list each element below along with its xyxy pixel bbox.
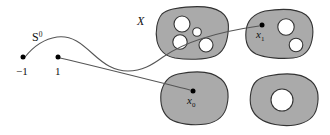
blob-bottom-right xyxy=(250,74,318,126)
label-sphere-base: S xyxy=(32,30,39,44)
label-point-one: 1 xyxy=(55,65,61,77)
label-x1-sub: 1 xyxy=(261,35,265,43)
hole-bottom-right-1 xyxy=(271,89,293,111)
label-point-minus-one: −1 xyxy=(16,65,28,77)
hole-top-left-4 xyxy=(199,38,213,52)
blob-top-left xyxy=(156,7,228,60)
blob-bottom-left-outline xyxy=(161,72,228,125)
label-sphere-s0: S0 xyxy=(32,30,43,45)
figure-canvas: S0 X −1 1 x1 x0 xyxy=(0,0,330,135)
label-sphere-exponent: 0 xyxy=(39,30,43,39)
curve-one-to-x0 xyxy=(60,58,190,90)
blob-bottom-left xyxy=(161,72,228,125)
dot-one xyxy=(56,55,61,60)
dot-minus-one xyxy=(21,55,26,60)
dot-x0 xyxy=(191,89,196,94)
topology-figure: S0 X −1 1 x1 x0 xyxy=(0,0,330,135)
dot-x1 xyxy=(260,23,265,28)
label-x0-sub: 0 xyxy=(192,101,196,109)
hole-top-left-1 xyxy=(174,16,190,32)
hole-top-right-1 xyxy=(278,19,294,35)
label-space-x: X xyxy=(136,14,145,28)
hole-top-left-2 xyxy=(193,28,202,37)
hole-top-right-2 xyxy=(289,38,303,52)
